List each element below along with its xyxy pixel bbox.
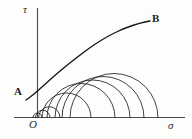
envelope-end-label-b: B xyxy=(152,13,159,24)
normal-stress-axis-label: σ xyxy=(168,120,173,131)
envelope-start-label-a: A xyxy=(14,86,22,97)
origin-label: O xyxy=(29,119,37,130)
mohr-circle-7 xyxy=(62,76,144,117)
shear-stress-axis-label: τ xyxy=(23,4,27,15)
mohr-circles-group xyxy=(33,74,158,118)
axes-group xyxy=(14,8,185,118)
mohr-circle-figure: τ σ O A B xyxy=(0,0,192,139)
